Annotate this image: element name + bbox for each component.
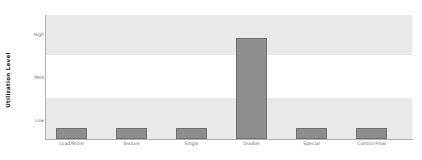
y-axis-title-text: Utilization Level [5,52,11,107]
y-tick-med: Med [18,76,44,81]
bar-control-flow[interactable] [356,128,387,139]
y-axis-title: Utilization Level [0,0,16,160]
x-axis-tick-labels: Load/StoreTextureSingleDoubleSpecialCont… [46,142,412,156]
bars-layer [46,15,412,139]
x-axis-line [45,139,413,140]
bar-chart: Utilization Level HighMedLow Load/StoreT… [0,0,422,160]
bar-single[interactable] [176,128,207,139]
x-tick-texture: Texture [102,142,162,147]
bar-special[interactable] [296,128,327,139]
bar-load-store[interactable] [56,128,87,139]
x-tick-double: Double [222,142,282,147]
y-tick-low: Low [18,119,44,124]
bar-texture[interactable] [116,128,147,139]
x-tick-load-store: Load/Store [42,142,102,147]
y-tick-high: High [18,33,44,38]
plot-area [46,15,412,139]
x-tick-control-flow: Control Flow [342,142,402,147]
x-tick-special: Special [282,142,342,147]
x-tick-single: Single [162,142,222,147]
y-axis-line [45,15,46,140]
y-axis-tick-labels: HighMedLow [16,0,44,160]
bar-double[interactable] [236,38,267,139]
